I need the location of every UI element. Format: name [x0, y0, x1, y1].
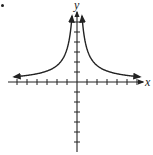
left-branch-curve	[14, 16, 72, 77]
y-axis-label: y	[73, 0, 80, 12]
right-branch-curve	[82, 16, 140, 77]
function-graph: x y	[0, 0, 153, 155]
axes	[8, 12, 143, 152]
x-axis-label: x	[144, 75, 151, 89]
